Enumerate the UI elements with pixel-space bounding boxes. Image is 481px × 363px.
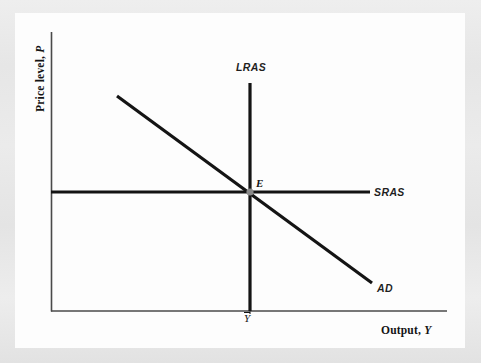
ad-curve-label: AD [377,283,393,294]
sras-curve-label: SRAS [374,187,405,198]
y-axis-title: Price level, P [35,24,47,134]
potential-output-label: Y [244,313,250,324]
y-axis-title-variable: P [34,46,46,53]
equilibrium-point-label: E [256,178,263,189]
lras-curve-label: LRAS [236,62,266,73]
potential-output-symbol: Y [244,313,250,324]
figure-root: Price level, P Output, Y LRAS SRAS AD E … [0,0,481,363]
x-axis-title-variable: Y [424,324,431,336]
y-axis-title-text: Price level, [34,53,46,112]
x-axis-title: Output, Y [381,325,431,337]
x-axis-title-text: Output, [381,324,424,336]
